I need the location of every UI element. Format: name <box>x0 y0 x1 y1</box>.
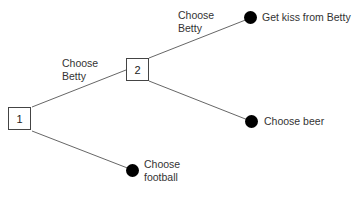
edge-1-to-football <box>32 131 130 169</box>
edge-label-1-to-2: Choose Betty <box>62 57 98 83</box>
edge-label-2-to-kiss: Choose Betty <box>178 9 214 35</box>
outcome-label-beer: Choose beer <box>264 115 324 128</box>
outcome-dot-football <box>126 164 139 177</box>
outcome-label-football: Choose football <box>144 158 180 184</box>
decision-node-2: 2 <box>126 58 149 81</box>
outcome-label-kiss: Get kiss from Betty <box>262 11 351 24</box>
decision-node-1: 1 <box>8 107 31 130</box>
decision-node-1-label: 1 <box>16 113 22 125</box>
decision-node-2-label: 2 <box>134 64 140 76</box>
edge-2-to-beer <box>149 81 248 120</box>
outcome-dot-kiss <box>244 11 257 24</box>
outcome-dot-beer <box>245 115 258 128</box>
